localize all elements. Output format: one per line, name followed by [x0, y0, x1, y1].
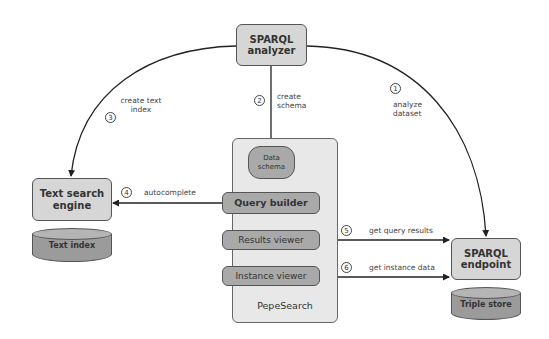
data-schema-node: Data schema — [248, 146, 295, 179]
instance-viewer-label: Instance viewer — [235, 271, 306, 281]
pepesearch-title: PepeSearch — [232, 300, 338, 311]
text-search-engine-line2: engine — [40, 200, 104, 212]
edge-label-line: analyze — [393, 100, 422, 109]
edge-label-create-text-index: create text index — [117, 96, 165, 115]
results-viewer-label: Results viewer — [238, 235, 303, 245]
triple-store-label: Triple store — [451, 300, 521, 309]
edge-label-line: create — [277, 92, 306, 101]
cylinder-top — [32, 228, 112, 240]
text-index-database: Text index — [32, 228, 112, 262]
sparql-analyzer-line2: analyzer — [247, 45, 295, 57]
sparql-analyzer-node: SPARQL analyzer — [236, 24, 307, 66]
data-schema-line1: Data — [258, 154, 285, 162]
text-index-label: Text index — [32, 241, 112, 250]
sparql-endpoint-node: SPARQL endpoint — [451, 238, 521, 280]
edge-label-analyze-dataset: analyze dataset — [393, 100, 422, 119]
edge-label-line: dataset — [393, 109, 422, 118]
cylinder-top — [451, 287, 521, 299]
edge-label-line: schema — [277, 101, 306, 110]
query-builder-node: Query builder — [222, 192, 320, 214]
query-builder-label: Query builder — [234, 198, 307, 209]
step-badge-1: 1 — [390, 83, 401, 94]
results-viewer-node: Results viewer — [222, 230, 320, 250]
step-badge-3: 3 — [105, 112, 116, 123]
edge-label-create-schema: create schema — [277, 92, 306, 111]
instance-viewer-node: Instance viewer — [222, 266, 320, 286]
sparql-endpoint-line1: SPARQL — [461, 248, 511, 260]
step-badge-5: 5 — [341, 225, 352, 236]
data-schema-line2: schema — [258, 163, 285, 171]
edge-label-get-instance-data: get instance data — [369, 263, 435, 272]
sparql-analyzer-line1: SPARQL — [247, 34, 295, 46]
edge-label-autocomplete: autocomplete — [144, 188, 196, 197]
sparql-endpoint-line2: endpoint — [461, 259, 511, 271]
step-badge-6: 6 — [341, 262, 352, 273]
edge-label-line: index — [117, 105, 165, 114]
step-badge-4: 4 — [121, 187, 132, 198]
edge-label-get-query-results: get query results — [369, 226, 433, 235]
edge-label-line: create text — [117, 96, 165, 105]
step-badge-2: 2 — [254, 95, 265, 106]
text-search-engine-line1: Text search — [40, 188, 104, 200]
triple-store-database: Triple store — [451, 287, 521, 320]
text-search-engine-node: Text search engine — [32, 178, 112, 221]
